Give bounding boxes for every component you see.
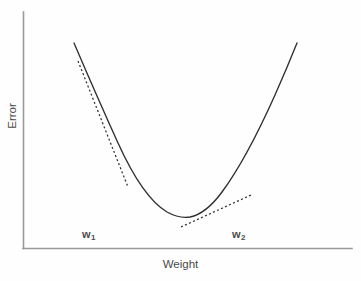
- x-axis-label: Weight: [0, 259, 361, 271]
- y-axis-label-container: Error: [2, 96, 22, 156]
- x-tick-label-w1-subscript: 1: [91, 233, 95, 242]
- y-axis-label: Error: [6, 94, 18, 138]
- error-vs-weight-figure: Error Weight w1 w2: [0, 0, 361, 281]
- x-tick-label-w2-base: w: [232, 228, 241, 240]
- tangent-line-w1: [78, 61, 128, 187]
- x-tick-label-w2-subscript: 2: [241, 233, 245, 242]
- plot-area: [0, 0, 361, 281]
- x-tick-label-w2: w2: [232, 229, 245, 240]
- error-curve: [74, 43, 297, 217]
- x-tick-label-w1: w1: [82, 229, 95, 240]
- x-tick-label-w1-base: w: [82, 228, 91, 240]
